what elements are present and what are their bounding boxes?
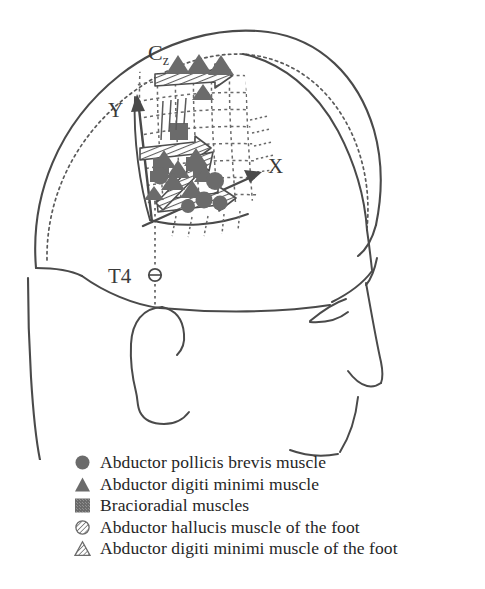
figure-root: T4 Cz xyxy=(0,0,485,589)
marker-square xyxy=(150,171,161,182)
filled-circle-icon xyxy=(74,454,91,471)
axis-y-label: Y xyxy=(108,98,123,122)
legend-item: Bracioradial muscles xyxy=(74,495,474,517)
axis-x-label: X xyxy=(268,154,283,178)
legend-item: Abductor hallucis muscle of the foot xyxy=(74,517,474,539)
legend-item-label: Abductor digiti minimi muscle xyxy=(100,474,319,495)
marker-triangle-group-top xyxy=(166,54,234,75)
legend-item: Abductor digiti minimi muscle of the foo… xyxy=(74,538,474,560)
head-diagram: T4 Cz xyxy=(0,0,485,460)
t4-label: T4 xyxy=(108,264,132,288)
nose-base xyxy=(348,371,381,386)
cz-label-main: C xyxy=(148,40,163,65)
cz-label: Cz xyxy=(148,40,169,68)
hairline-to-forehead xyxy=(160,305,330,311)
marker-circle xyxy=(181,199,195,213)
marker-circle xyxy=(206,172,224,190)
legend-item-label: Abductor hallucis muscle of the foot xyxy=(100,517,360,538)
hatched-triangle-icon xyxy=(74,540,91,557)
neck-back-line xyxy=(28,278,40,460)
legend: Abductor pollicis brevis muscle Abductor… xyxy=(74,452,474,560)
marker-circle xyxy=(213,196,228,211)
marker-circle xyxy=(196,192,213,209)
legend-item-label: Bracioradial muscles xyxy=(100,495,249,516)
face-profile-group xyxy=(290,258,383,456)
filled-triangle-icon xyxy=(74,476,91,493)
hatched-circle-icon xyxy=(74,519,91,536)
legend-item: Abductor pollicis brevis muscle xyxy=(74,452,474,474)
legend-item: Abductor digiti minimi muscle xyxy=(74,474,474,496)
nose-bridge xyxy=(366,283,383,383)
cz-label-subscript: z xyxy=(163,53,169,68)
jaw-hairline xyxy=(36,268,82,276)
filled-square-icon xyxy=(74,497,91,514)
legend-item-label: Abductor digiti minimi muscle of the foo… xyxy=(100,538,398,559)
ear-outline xyxy=(131,307,189,424)
marker-triangle xyxy=(192,84,214,100)
sagittal-reference-line xyxy=(243,54,372,270)
lip-chin-line xyxy=(340,397,358,452)
legend-item-label: Abductor pollicis brevis muscle xyxy=(100,452,326,473)
marker-square xyxy=(170,123,188,140)
